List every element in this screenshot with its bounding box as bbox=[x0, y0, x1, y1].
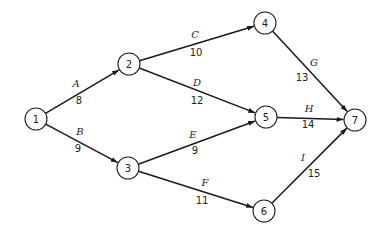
edge-label: I bbox=[300, 152, 306, 163]
edge-c: C10 bbox=[140, 26, 255, 61]
node-label: 2 bbox=[126, 59, 132, 70]
edge-label: F bbox=[201, 177, 210, 188]
edge-arrow bbox=[272, 128, 347, 203]
edge-arrow bbox=[138, 121, 255, 164]
edge-arrow bbox=[273, 31, 348, 112]
edge-arrow bbox=[46, 70, 120, 114]
edge-weight: 10 bbox=[190, 47, 203, 58]
edge-g: G13 bbox=[273, 31, 348, 112]
edge-label: E bbox=[188, 129, 197, 140]
edge-weight: 9 bbox=[75, 143, 81, 154]
edge-weight: 8 bbox=[76, 95, 82, 106]
node-label: 1 bbox=[33, 114, 39, 125]
edge-f: F11 bbox=[139, 171, 254, 207]
node-label: 7 bbox=[352, 115, 358, 126]
edge-weight: 12 bbox=[191, 95, 204, 106]
edge-weight: 13 bbox=[296, 72, 309, 83]
node-2: 2 bbox=[118, 53, 140, 75]
edge-e: E9 bbox=[138, 121, 255, 164]
node-label: 3 bbox=[125, 163, 131, 174]
node-1: 1 bbox=[25, 108, 47, 130]
node-label: 5 bbox=[263, 112, 269, 123]
edge-weight: 9 bbox=[192, 145, 198, 156]
edge-h: H14 bbox=[277, 103, 344, 130]
edge-i: I15 bbox=[272, 128, 347, 203]
edge-arrow bbox=[139, 68, 255, 113]
edge-label: C bbox=[191, 29, 199, 40]
edge-weight: 11 bbox=[196, 195, 209, 206]
edge-label: H bbox=[304, 103, 314, 114]
edge-weight: 14 bbox=[302, 119, 315, 130]
edge-d: D12 bbox=[139, 68, 255, 113]
edge-b: B9 bbox=[46, 124, 118, 162]
node-6: 6 bbox=[253, 200, 275, 222]
edge-label: B bbox=[75, 126, 83, 137]
network-diagram: A8B9C10D12E9F11G13H14I15 1234567 bbox=[0, 0, 388, 234]
edge-label: D bbox=[192, 77, 201, 88]
node-7: 7 bbox=[344, 109, 366, 131]
node-3: 3 bbox=[117, 157, 139, 179]
edge-label: A bbox=[71, 78, 79, 89]
edges-layer: A8B9C10D12E9F11G13H14I15 bbox=[46, 26, 348, 207]
edge-label: G bbox=[310, 57, 318, 68]
node-5: 5 bbox=[255, 106, 277, 128]
node-label: 4 bbox=[262, 18, 268, 29]
node-4: 4 bbox=[254, 12, 276, 34]
edge-weight: 15 bbox=[308, 168, 321, 179]
node-label: 6 bbox=[261, 206, 267, 217]
edge-a: A8 bbox=[46, 70, 120, 114]
